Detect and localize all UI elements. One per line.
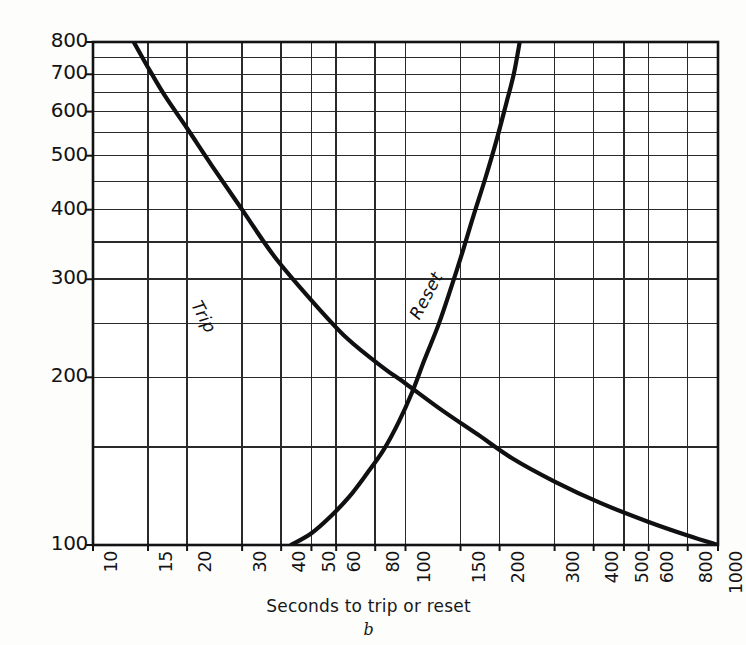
x-axis-title: Seconds to trip or reset (0, 596, 737, 616)
figure-caption: b (0, 620, 737, 639)
